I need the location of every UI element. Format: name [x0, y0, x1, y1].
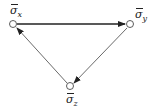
node-z [67, 83, 74, 90]
edge-z-to-x [17, 28, 67, 83]
graph-canvas [0, 0, 157, 110]
subscript: y [143, 14, 148, 23]
sigma-symbol: σ [135, 9, 143, 20]
subscript: x [18, 10, 23, 19]
node-y-label: σy [135, 9, 147, 23]
subscript: z [74, 99, 78, 108]
node-y [127, 21, 134, 28]
edge-y-to-z [74, 28, 127, 83]
sigma-symbol: σ [10, 5, 18, 16]
sigma-symbol: σ [66, 94, 74, 105]
node-x-label: σx [10, 5, 22, 19]
node-z-label: σz [66, 94, 78, 108]
node-x [10, 21, 17, 28]
